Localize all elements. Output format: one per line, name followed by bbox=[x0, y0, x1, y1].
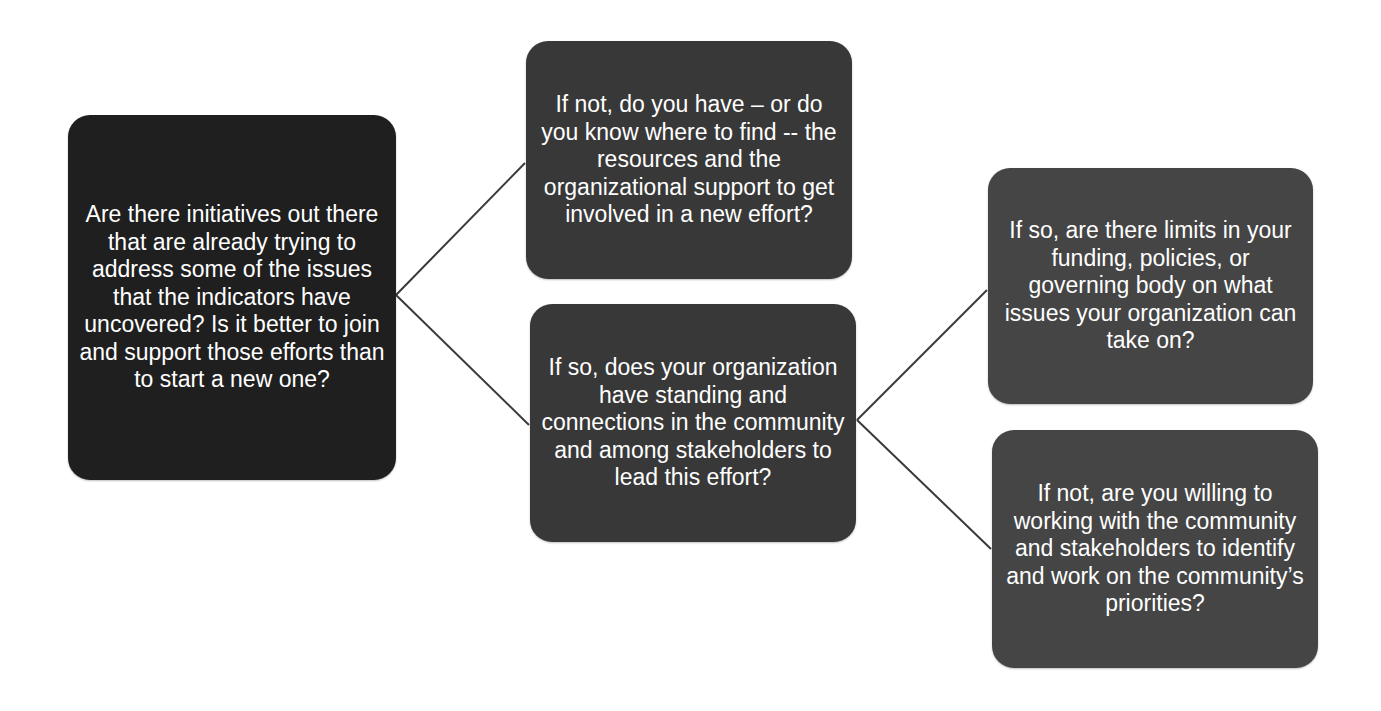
node-so-limits-question: If so, are there limits in your funding,… bbox=[988, 168, 1313, 404]
node-has-initiatives-text: If so, does your organization have stand… bbox=[540, 354, 846, 492]
node-root-question: Are there initiatives out there that are… bbox=[68, 115, 396, 480]
node-no-initiatives-text: If not, do you have – or do you know whe… bbox=[536, 91, 842, 229]
connector-has-initiatives-to-not-willing bbox=[857, 420, 991, 549]
node-not-willing-question: If not, are you willing to working with … bbox=[992, 430, 1318, 668]
connector-has-initiatives-to-so-limits bbox=[857, 290, 987, 420]
node-so-limits-text: If so, are there limits in your funding,… bbox=[998, 217, 1303, 355]
node-no-initiatives-question: If not, do you have – or do you know whe… bbox=[526, 41, 852, 279]
node-not-willing-text: If not, are you willing to working with … bbox=[1002, 480, 1308, 618]
node-has-initiatives-question: If so, does your organization have stand… bbox=[530, 304, 856, 542]
connector-root-to-no-initiatives bbox=[396, 163, 525, 295]
connector-root-to-has-initiatives bbox=[396, 295, 529, 425]
node-root-text: Are there initiatives out there that are… bbox=[78, 201, 386, 394]
